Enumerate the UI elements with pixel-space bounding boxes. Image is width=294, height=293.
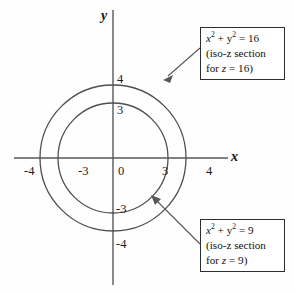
x-tick-3: 3 <box>162 165 168 178</box>
figure-canvas: y x -4 -3 3 4 0 4 3 -3 -4 x2 + y2 = 16 (… <box>0 0 294 293</box>
callout-outer-circle: x2 + y2 = 16 (iso-z section for z = 16) <box>200 27 285 80</box>
x-axis-label: x <box>231 150 238 164</box>
callout-inner-eq-exp2: 2 <box>232 222 236 231</box>
y-tick-minus-4: -4 <box>116 238 126 251</box>
callout-outer-line3-pre: for <box>206 62 222 74</box>
callout-outer-line2: (iso-z section <box>206 46 279 61</box>
outer-callout-leader <box>168 48 200 76</box>
y-axis-label: y <box>101 9 107 23</box>
x-tick-4: 4 <box>206 165 212 178</box>
callout-inner-line2: (iso-z section <box>206 238 279 253</box>
callout-outer-line3-post: = 16) <box>226 62 253 74</box>
callout-outer-eq-exp1: 2 <box>211 30 215 39</box>
callout-outer-eq-exp2: 2 <box>232 30 236 39</box>
origin-label: 0 <box>118 165 124 178</box>
y-tick-3: 3 <box>117 104 123 117</box>
callout-outer-line3: for z = 16) <box>206 61 279 76</box>
callout-inner-circle: x2 + y2 = 9 (iso-z section for z = 9) <box>200 219 285 272</box>
x-tick-minus-4: -4 <box>24 165 34 178</box>
callout-inner-line3: for z = 9) <box>206 253 279 268</box>
inner-callout-leader <box>156 200 200 244</box>
x-tick-minus-3: -3 <box>78 165 88 178</box>
callout-inner-eq-mid: + y <box>218 224 233 236</box>
callout-outer-equation: x2 + y2 = 16 <box>206 31 279 46</box>
callout-inner-eq-rhs: = 9 <box>239 224 254 236</box>
callout-inner-line3-post: = 9) <box>226 254 247 266</box>
callout-outer-eq-mid: + y <box>218 32 233 44</box>
callout-inner-eq-exp1: 2 <box>211 222 215 231</box>
y-tick-4: 4 <box>117 73 123 86</box>
callout-inner-equation: x2 + y2 = 9 <box>206 223 279 238</box>
outer-callout-arrowhead <box>163 75 173 83</box>
callout-outer-eq-rhs: = 16 <box>239 32 259 44</box>
callout-inner-line3-pre: for <box>206 254 222 266</box>
y-tick-minus-3: -3 <box>116 203 126 216</box>
